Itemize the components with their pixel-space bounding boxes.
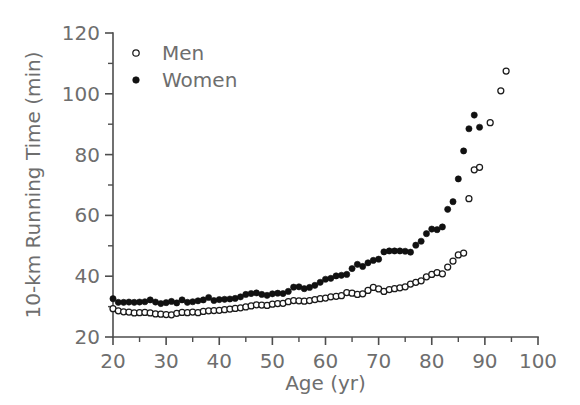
data-point-men bbox=[439, 271, 445, 277]
data-point-women bbox=[349, 266, 355, 272]
data-point-women bbox=[423, 231, 429, 237]
data-point-men bbox=[503, 68, 509, 74]
data-point-men bbox=[450, 258, 456, 264]
data-point-men bbox=[466, 196, 472, 202]
data-point-women bbox=[418, 238, 424, 244]
legend-label: Men bbox=[162, 41, 204, 65]
data-point-women bbox=[471, 112, 477, 118]
data-point-women bbox=[110, 296, 116, 302]
data-points bbox=[110, 68, 509, 318]
legend-marker-women bbox=[133, 77, 140, 84]
data-point-men bbox=[461, 250, 467, 256]
y-tick-label: 40 bbox=[75, 264, 100, 288]
data-point-women bbox=[439, 224, 445, 230]
data-point-women bbox=[445, 206, 451, 212]
data-point-women bbox=[344, 271, 350, 277]
x-tick-label: 50 bbox=[260, 349, 285, 373]
data-point-men bbox=[445, 264, 451, 270]
x-tick-label: 40 bbox=[207, 349, 232, 373]
legend-label: Women bbox=[162, 68, 237, 92]
data-point-women bbox=[450, 199, 456, 205]
data-point-men bbox=[498, 88, 504, 94]
data-point-men bbox=[477, 164, 483, 170]
legend: MenWomen bbox=[133, 41, 238, 92]
data-point-men bbox=[487, 120, 493, 126]
x-tick-label: 70 bbox=[366, 349, 391, 373]
y-tick-label: 20 bbox=[75, 325, 100, 349]
x-tick-label: 30 bbox=[153, 349, 178, 373]
legend-marker-men bbox=[133, 50, 139, 56]
chart-figure: 203040506070809010020406080100120 MenWom… bbox=[0, 0, 580, 405]
x-tick-label: 80 bbox=[419, 349, 444, 373]
data-point-women bbox=[376, 256, 382, 262]
data-point-women bbox=[407, 249, 413, 255]
y-tick-label: 60 bbox=[75, 203, 100, 227]
data-point-men bbox=[418, 278, 424, 284]
data-point-women bbox=[413, 242, 419, 248]
y-tick-label: 100 bbox=[62, 82, 100, 106]
data-point-women bbox=[360, 263, 366, 269]
data-point-women bbox=[285, 288, 291, 294]
scatter-plot: 203040506070809010020406080100120 MenWom… bbox=[0, 0, 580, 405]
data-point-women bbox=[461, 148, 467, 154]
data-point-women bbox=[476, 124, 482, 130]
x-tick-label: 100 bbox=[519, 349, 557, 373]
data-point-women bbox=[466, 126, 472, 132]
y-tick-label: 120 bbox=[62, 21, 100, 45]
data-point-women bbox=[455, 176, 461, 182]
y-tick-label: 80 bbox=[75, 143, 100, 167]
x-tick-label: 20 bbox=[100, 349, 125, 373]
y-axis-title: 10-km Running Time (min) bbox=[21, 51, 45, 318]
x-axis-title: Age (yr) bbox=[285, 371, 366, 395]
x-tick-label: 90 bbox=[472, 349, 497, 373]
x-tick-label: 60 bbox=[313, 349, 338, 373]
axes: 203040506070809010020406080100120 bbox=[62, 21, 557, 373]
